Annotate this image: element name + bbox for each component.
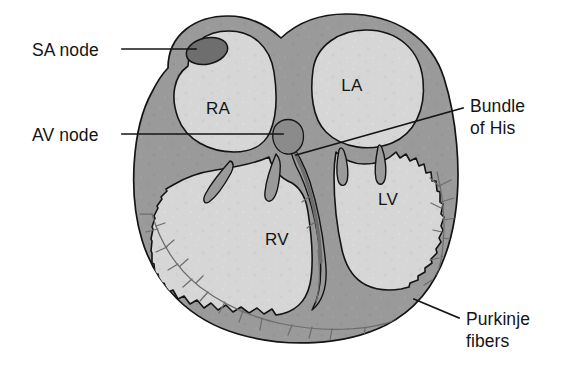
leader-line-purkinje-fibers [414, 299, 459, 318]
chamber-label-left-atrium: LA [341, 76, 363, 95]
chamber-label-right-ventricle: RV [265, 230, 289, 249]
chamber-label-left-ventricle: LV [378, 190, 398, 209]
heart-conduction-diagram: RA LA RV LV SA node AV node Bundle of Hi… [0, 0, 576, 372]
heart-diagram-svg: RA LA RV LV SA node AV node Bundle of Hi… [0, 0, 576, 372]
callout-label-sa-node: SA node [32, 40, 99, 60]
left-atrium-cavity [312, 30, 424, 148]
chamber-label-right-atrium: RA [206, 99, 231, 118]
av-node [273, 120, 304, 155]
callout-label-purkinje-fibers-line2: fibers [466, 331, 510, 351]
callout-label-purkinje-fibers-line1: Purkinje [466, 309, 530, 329]
callout-label-bundle-of-his-line1: Bundle [470, 96, 525, 116]
callout-label-bundle-of-his-line2: of His [470, 118, 515, 138]
callout-label-av-node: AV node [32, 125, 99, 145]
